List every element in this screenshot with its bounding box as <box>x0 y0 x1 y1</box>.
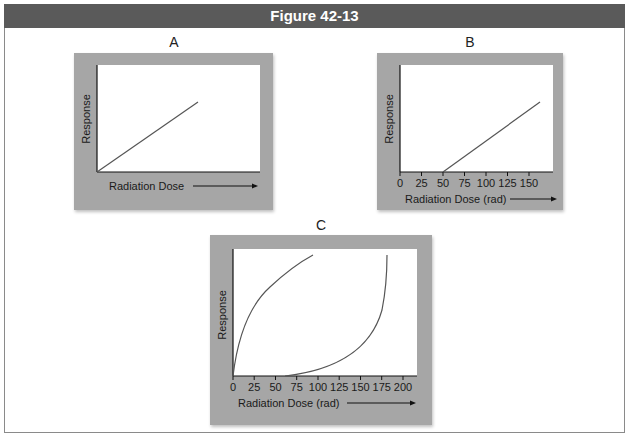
svg-text:75: 75 <box>291 381 303 393</box>
svg-text:150: 150 <box>520 177 538 189</box>
y-axis-label: Response <box>80 94 92 144</box>
x-tick-labels: 0 25 50 75 100 125 150 175 200 <box>230 381 412 393</box>
panel-b-label: B <box>455 34 485 50</box>
svg-text:75: 75 <box>458 177 470 189</box>
figure-bottom-divider <box>4 432 625 433</box>
svg-text:0: 0 <box>397 177 403 189</box>
svg-text:125: 125 <box>498 177 516 189</box>
x-axis-label: Radiation Dose <box>109 180 184 192</box>
svg-text:0: 0 <box>230 381 236 393</box>
x-tick-labels: 0 25 50 75 100 125 150 <box>397 177 538 189</box>
panel-a: Response Radiation Dose <box>74 53 273 210</box>
y-axis-label: Response <box>383 94 395 144</box>
y-axis-label: Response <box>216 290 228 340</box>
svg-text:150: 150 <box>351 381 369 393</box>
svg-text:25: 25 <box>248 381 260 393</box>
svg-text:200: 200 <box>394 381 412 393</box>
chart-a: Response Radiation Dose <box>74 53 273 210</box>
x-axis-label: Radiation Dose (rad) <box>238 397 340 409</box>
panel-c-label: C <box>306 217 336 233</box>
panel-a-label: A <box>159 34 189 50</box>
x-axis-label: Radiation Dose (rad) <box>405 193 507 205</box>
chart-c: 0 25 50 75 100 125 150 175 200 Response … <box>210 235 432 425</box>
chart-b: 0 25 50 75 100 125 150 Response Radiatio… <box>377 53 563 210</box>
panel-c: 0 25 50 75 100 125 150 175 200 Response … <box>210 235 432 425</box>
svg-text:100: 100 <box>309 381 327 393</box>
arrow-right-icon <box>410 401 416 406</box>
svg-text:50: 50 <box>269 381 281 393</box>
svg-text:50: 50 <box>437 177 449 189</box>
arrow-right-icon <box>551 197 557 202</box>
svg-text:175: 175 <box>373 381 391 393</box>
figure-title: Figure 42-13 <box>270 7 358 24</box>
svg-text:125: 125 <box>330 381 348 393</box>
panel-b: 0 25 50 75 100 125 150 Response Radiatio… <box>377 53 563 210</box>
figure-title-bar: Figure 42-13 <box>4 4 625 28</box>
svg-text:100: 100 <box>477 177 495 189</box>
svg-text:25: 25 <box>415 177 427 189</box>
arrow-right-icon <box>252 184 258 189</box>
